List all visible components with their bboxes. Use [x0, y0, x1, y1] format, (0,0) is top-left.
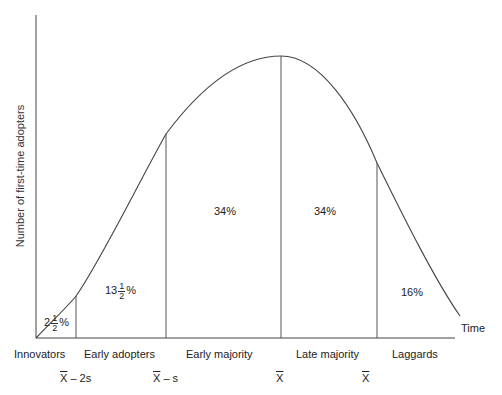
boundary-mean-minus-s: X – s — [153, 372, 178, 384]
category-early-majority: Early majority — [186, 348, 253, 360]
fraction: 12 — [118, 282, 125, 301]
adoption-curve — [36, 56, 460, 338]
boundary-mean: X — [276, 372, 283, 384]
category-late-majority: Late majority — [296, 348, 359, 360]
pct-late-majority: 34% — [314, 205, 336, 217]
category-laggards: Laggards — [392, 348, 438, 360]
pct-sign: % — [59, 316, 69, 328]
boundary-mean-minus-2s: X – 2s — [60, 372, 91, 384]
pct-laggards: 16% — [401, 286, 423, 298]
pct-early-majority: 34% — [214, 205, 236, 217]
diffusion-curve-diagram — [0, 0, 502, 395]
pct-early-adopters: 1312% — [105, 282, 136, 301]
pct-whole: 2 — [44, 316, 50, 328]
boundary-mean-2: X — [362, 372, 369, 384]
pct-sign: % — [126, 284, 136, 296]
category-early-adopters: Early adopters — [84, 348, 155, 360]
fraction: 12 — [51, 314, 58, 333]
category-innovators: Innovators — [14, 348, 65, 360]
y-axis-label: Number of first-time adopters — [14, 86, 26, 266]
x-axis-label: Time — [461, 322, 485, 334]
pct-innovators: 212% — [44, 314, 69, 333]
pct-whole: 13 — [105, 284, 117, 296]
